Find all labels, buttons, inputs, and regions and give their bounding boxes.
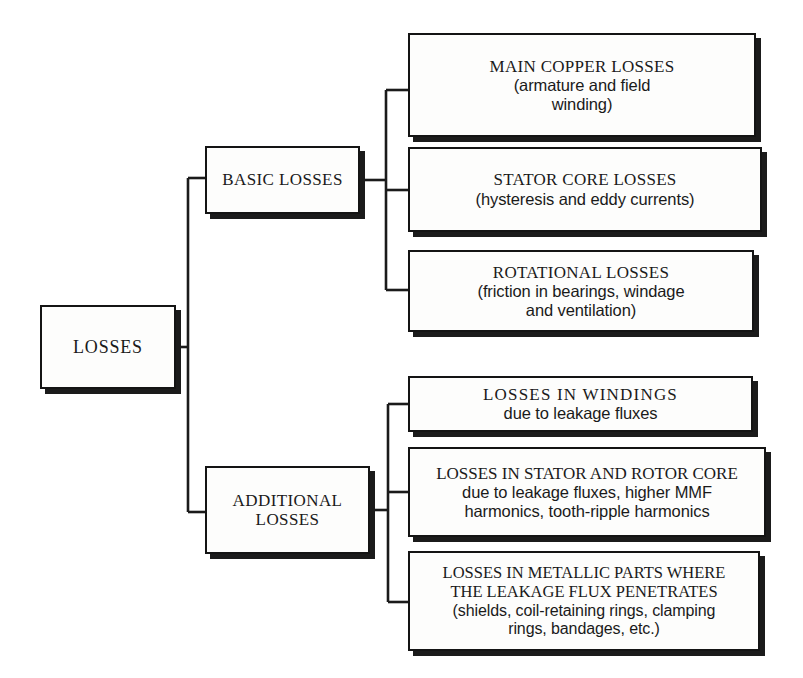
node-losses-in-windings-line-1: LOSSES IN WINDINGS xyxy=(483,385,678,404)
node-rotational-losses[interactable]: ROTATIONAL LOSSES (friction in bearings,… xyxy=(408,250,754,332)
node-losses-in-metallic-parts-line-1: LOSSES IN METALLIC PARTS WHERE xyxy=(443,564,726,583)
node-main-copper-losses-line-3: winding) xyxy=(552,95,613,114)
node-losses-in-metallic-parts-line-2: THE LEAKAGE FLUX PENETRATES xyxy=(450,583,717,602)
node-main-copper-losses-line-2: (armature and field xyxy=(514,76,651,95)
node-rotational-losses-line-1: ROTATIONAL LOSSES xyxy=(493,263,669,282)
node-losses-in-windings[interactable]: LOSSES IN WINDINGS due to leakage fluxes xyxy=(408,376,753,432)
node-losses-in-stator-and-rotor-core-line-1: LOSSES IN STATOR AND ROTOR CORE xyxy=(436,464,738,483)
node-rotational-losses-line-3: and ventilation) xyxy=(526,301,636,320)
node-main-copper-losses-line-1: MAIN COPPER LOSSES xyxy=(490,57,675,76)
node-additional-losses-line-2: LOSSES xyxy=(256,510,320,529)
node-additional-losses[interactable]: ADDITIONAL LOSSES xyxy=(205,466,370,554)
node-losses-in-stator-and-rotor-core[interactable]: LOSSES IN STATOR AND ROTOR CORE due to l… xyxy=(408,447,766,537)
node-rotational-losses-line-2: (friction in bearings, windage xyxy=(477,282,684,301)
node-losses-in-stator-and-rotor-core-line-3: harmonics, tooth-ripple harmonics xyxy=(464,502,709,521)
losses-tree-diagram: LOSSES BASIC LOSSES ADDITIONAL LOSSES MA… xyxy=(0,0,803,678)
node-basic-losses-line-1: BASIC LOSSES xyxy=(222,170,343,189)
node-losses-in-metallic-parts-line-4: rings, bandages, etc.) xyxy=(508,620,660,638)
node-stator-core-losses[interactable]: STATOR CORE LOSSES (hysteresis and eddy … xyxy=(408,147,762,232)
node-losses-line-1: LOSSES xyxy=(73,337,143,358)
node-additional-losses-line-1: ADDITIONAL xyxy=(233,491,343,510)
node-basic-losses[interactable]: BASIC LOSSES xyxy=(205,146,360,214)
node-main-copper-losses[interactable]: MAIN COPPER LOSSES (armature and field w… xyxy=(408,33,756,137)
node-stator-core-losses-line-1: STATOR CORE LOSSES xyxy=(493,170,676,189)
node-losses-in-metallic-parts[interactable]: LOSSES IN METALLIC PARTS WHERE THE LEAKA… xyxy=(408,551,760,651)
node-losses-in-metallic-parts-line-3: (shields, coil-retaining rings, clamping xyxy=(453,602,716,620)
node-losses-in-windings-line-2: due to leakage fluxes xyxy=(504,404,658,423)
node-losses[interactable]: LOSSES xyxy=(40,305,176,389)
node-losses-in-stator-and-rotor-core-line-2: due to leakage fluxes, higher MMF xyxy=(462,483,712,502)
node-stator-core-losses-line-2: (hysteresis and eddy currents) xyxy=(476,190,695,209)
